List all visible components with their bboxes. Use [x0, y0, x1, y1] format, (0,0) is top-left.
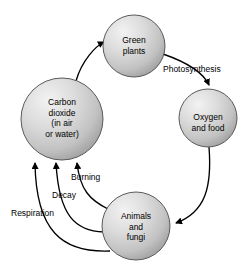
node-green-plants[interactable] — [103, 15, 165, 77]
node-group — [21, 15, 237, 260]
diagram-canvas — [0, 0, 252, 272]
edge-label-respiration: Respiration — [11, 208, 54, 218]
node-carbon-dioxide[interactable] — [21, 78, 103, 160]
edge-animals-burning-to-co2 — [77, 163, 108, 209]
node-oxygen-and-food[interactable] — [179, 89, 237, 147]
edge-label-decay: Decay — [52, 190, 76, 200]
edge-label-photosynthesis: Photosynthesis — [163, 64, 221, 74]
edge-label-burning: Burning — [71, 172, 100, 182]
node-animals-and-fungi[interactable] — [102, 192, 170, 260]
edge-co2-to-plants — [76, 42, 104, 81]
carbon-cycle-diagram: Green plants Oxygen and food Animals and… — [0, 0, 252, 272]
edge-oxygen-to-animals — [176, 147, 210, 223]
